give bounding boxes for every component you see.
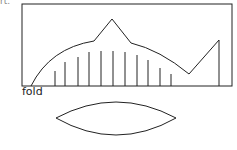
diagram-frame bbox=[22, 4, 232, 86]
fold-diagram bbox=[0, 0, 237, 150]
lens-shape bbox=[56, 102, 176, 135]
fold-label: fold bbox=[22, 85, 43, 98]
vertical-ribs bbox=[55, 40, 219, 86]
